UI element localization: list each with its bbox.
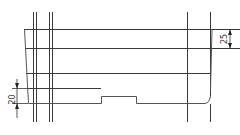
left-vertical-lines	[34, 12, 53, 122]
bottom-profile	[29, 96, 211, 104]
arrow-down-icon	[15, 83, 19, 89]
engineering-drawing: 20 25	[0, 0, 240, 135]
left-slanted-edge	[25, 30, 29, 104]
right-vertical-lines	[188, 12, 211, 122]
left-dimension: 20	[8, 79, 29, 118]
right-dimension-label: 25	[220, 34, 229, 44]
right-dimension: 25	[212, 30, 236, 49]
horizontal-lines	[24, 30, 240, 89]
left-dimension-label: 20	[8, 94, 17, 104]
